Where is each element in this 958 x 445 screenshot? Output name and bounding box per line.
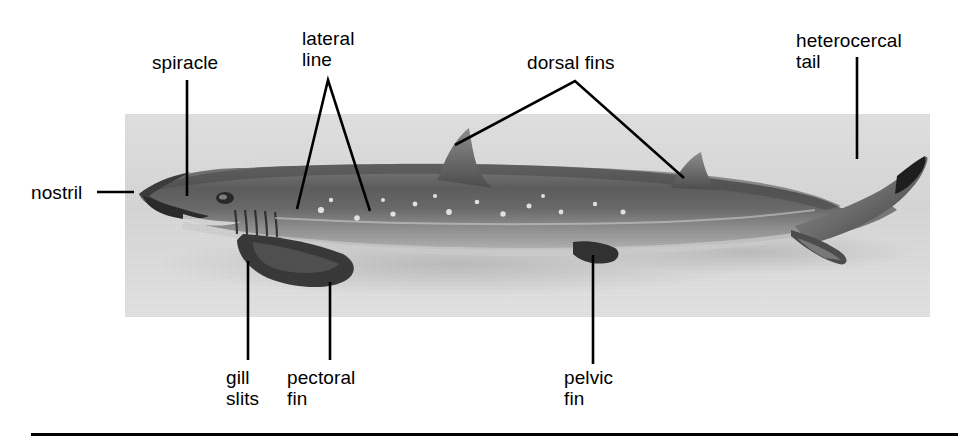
label-pectoral-fin: pectoral fin [287, 367, 355, 409]
label-gill-slits: gill slits [226, 367, 259, 409]
label-heterocercal-tail: heterocercal tail [796, 30, 902, 72]
shark-anatomy-figure: nostril spiracle lateral line dorsal fin… [0, 0, 958, 445]
label-nostril: nostril [31, 182, 82, 203]
label-lateral-line: lateral line [302, 28, 354, 70]
label-dorsal-fins: dorsal fins [527, 52, 615, 73]
specimen-photograph [125, 114, 930, 317]
label-pelvic-fin: pelvic fin [564, 367, 613, 409]
photo-halftone-texture [125, 114, 930, 317]
label-spiracle: spiracle [152, 52, 218, 73]
bottom-horizontal-rule [31, 433, 958, 436]
